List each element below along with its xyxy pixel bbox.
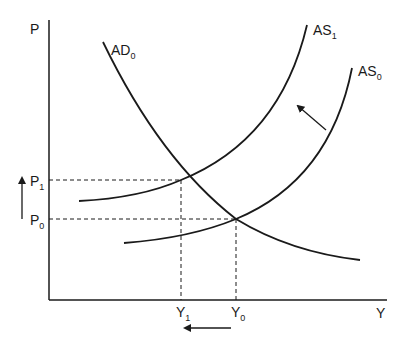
as-ad-diagram: P Y AD0 AS1 AS0 P1 P0 Y1 Y0 [0, 0, 402, 345]
y0-label: Y0 [231, 304, 245, 323]
as1-label: AS1 [313, 22, 337, 41]
p0-label: P0 [30, 212, 44, 231]
as-shift-arrow-icon [298, 106, 326, 130]
p1-label: P1 [30, 173, 44, 192]
as0-label: AS0 [358, 63, 382, 82]
x-axis-label: Y [376, 305, 386, 321]
ad0-label: AD0 [111, 42, 135, 61]
y1-label: Y1 [176, 304, 190, 323]
as0-curve [124, 68, 352, 243]
y-axis-label: P [30, 21, 39, 37]
